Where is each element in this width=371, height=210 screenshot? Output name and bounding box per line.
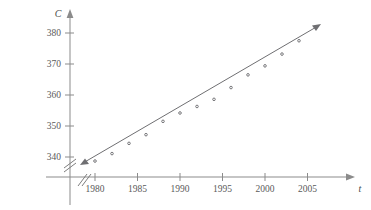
- co2-scatter-chart: 340350360370380 198019851990199520002005…: [0, 0, 371, 210]
- data-point: [94, 160, 97, 163]
- x-tick-label: 2000: [256, 184, 275, 194]
- data-point: [264, 65, 267, 68]
- regression-line-arrowhead-start: [80, 159, 89, 166]
- regression-line: [83, 26, 318, 163]
- data-point: [145, 133, 148, 136]
- x-tick-label: 1990: [171, 184, 190, 194]
- x-axis-label: t: [359, 183, 362, 194]
- x-tick-label: 1995: [213, 184, 232, 194]
- y-tick-label: 370: [47, 59, 62, 69]
- data-point: [213, 98, 216, 101]
- y-tick-label: 380: [47, 28, 62, 38]
- data-point: [281, 53, 284, 56]
- x-tick-label: 2005: [298, 184, 317, 194]
- y-axis-label: C: [55, 8, 62, 19]
- y-axis-tick-labels: 340350360370380: [47, 28, 62, 162]
- x-tick-label: 1980: [86, 184, 105, 194]
- y-tick-label: 350: [47, 121, 62, 131]
- y-tick-label: 360: [47, 90, 62, 100]
- y-axis-group: [67, 9, 74, 205]
- y-axis-arrowhead: [67, 9, 74, 18]
- x-axis-tick-labels: 198019851990199520002005: [86, 184, 318, 194]
- data-point: [111, 152, 114, 155]
- data-points-group: [94, 39, 301, 162]
- data-point: [247, 74, 250, 77]
- x-axis-group: [46, 174, 355, 181]
- data-point: [162, 120, 165, 123]
- x-axis-arrowhead: [346, 174, 355, 181]
- regression-line-group: [80, 24, 321, 165]
- y-tick-label: 340: [47, 152, 62, 162]
- chart-svg: 340350360370380 198019851990199520002005…: [0, 0, 371, 210]
- data-point: [196, 105, 199, 108]
- data-point: [230, 86, 233, 89]
- data-point: [179, 112, 182, 115]
- x-tick-label: 1985: [128, 184, 147, 194]
- regression-line-arrowhead-end: [312, 24, 321, 31]
- data-point: [128, 142, 131, 145]
- data-point: [298, 39, 301, 42]
